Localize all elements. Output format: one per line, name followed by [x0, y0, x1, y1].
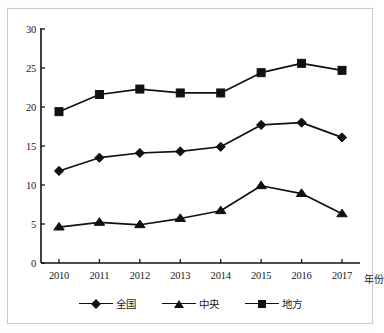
legend-swatch-square-icon — [245, 298, 279, 310]
triangle-marker-icon — [174, 300, 184, 308]
legend-swatch-diamond-icon — [79, 298, 113, 310]
y-tick-label: 5 — [6, 219, 36, 230]
x-tick-label: 2016 — [291, 270, 311, 281]
data-point-marker — [176, 147, 185, 156]
x-tick-label: 2013 — [170, 270, 190, 281]
data-point-marker — [136, 85, 144, 93]
legend-item-地方[interactable]: 地方 — [245, 296, 302, 311]
data-point-marker — [217, 89, 225, 97]
data-point-marker — [176, 89, 184, 97]
square-marker-icon — [258, 300, 266, 308]
x-tick-label: 2017 — [332, 270, 352, 281]
x-tick-label: 2014 — [211, 270, 231, 281]
data-point-marker — [54, 166, 63, 175]
legend-label: 中央 — [199, 296, 219, 311]
data-point-marker — [216, 142, 225, 151]
data-point-marker — [338, 66, 346, 74]
data-point-marker — [298, 59, 306, 67]
y-tick-label: 15 — [6, 141, 36, 152]
y-tick-label: 10 — [6, 180, 36, 191]
x-tick-label: 2012 — [130, 270, 150, 281]
diamond-marker-icon — [91, 299, 101, 309]
x-tick-label: 2010 — [49, 270, 69, 281]
y-tick-label: 20 — [6, 102, 36, 113]
axes — [41, 28, 360, 263]
data-point-marker — [337, 133, 346, 142]
x-axis-title: 年份 — [364, 271, 384, 286]
data-point-marker — [297, 118, 306, 127]
y-tick-label: 0 — [6, 258, 36, 269]
legend-item-中央[interactable]: 中央 — [162, 296, 219, 311]
data-point-marker — [94, 218, 104, 226]
series-全国 — [54, 118, 346, 176]
chart-legend: 全国中央地方 — [0, 296, 381, 311]
y-tick-label: 25 — [6, 63, 36, 74]
series-中央 — [54, 181, 347, 230]
series-地方 — [55, 59, 346, 115]
data-point-marker — [95, 153, 104, 162]
data-series-group — [54, 59, 347, 230]
x-tick-label: 2015 — [251, 270, 271, 281]
x-tick-label: 2011 — [90, 270, 110, 281]
data-point-marker — [257, 120, 266, 129]
data-point-marker — [256, 181, 266, 189]
data-point-marker — [216, 206, 226, 214]
data-point-marker — [55, 108, 63, 116]
legend-label: 全国 — [116, 296, 136, 311]
y-tick-label: 30 — [6, 24, 36, 35]
legend-label: 地方 — [282, 296, 302, 311]
data-point-marker — [257, 69, 265, 77]
legend-swatch-triangle-icon — [162, 298, 196, 310]
data-point-marker — [135, 148, 144, 157]
legend-item-全国[interactable]: 全国 — [79, 296, 136, 311]
data-point-marker — [95, 91, 103, 99]
